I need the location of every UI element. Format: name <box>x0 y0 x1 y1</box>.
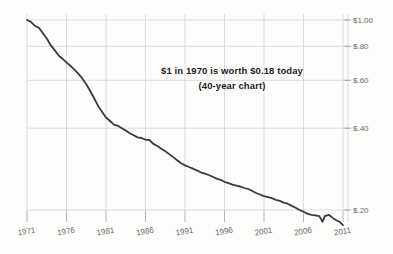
x-tick-label: 1971 <box>17 225 37 237</box>
x-tick-label: 1996 <box>215 225 235 237</box>
x-tick-label: 2001 <box>254 225 274 237</box>
x-tick-label: 1976 <box>57 225 77 237</box>
chart-annotation: $1 in 1970 is worth $0.18 today (40-year… <box>122 63 342 93</box>
y-tick-label: $.40 <box>353 124 369 133</box>
y-tick-label: $.20 <box>353 206 369 215</box>
x-tick-label: 1991 <box>175 225 195 237</box>
inflation-chart: 197119761981198619911996200120062011$1.0… <box>0 0 393 254</box>
y-tick-label: $.60 <box>353 76 369 85</box>
annotation-line-2: (40-year chart) <box>122 78 342 93</box>
x-tick-label: 2006 <box>294 225 314 237</box>
x-tick-label: 2011 <box>333 226 352 238</box>
chart-canvas: 197119761981198619911996200120062011$1.0… <box>0 0 393 254</box>
y-tick-label: $1.00 <box>353 16 374 25</box>
x-tick-label: 1986 <box>136 225 156 237</box>
annotation-line-1: $1 in 1970 is worth $0.18 today <box>122 63 342 78</box>
x-tick-label: 1981 <box>96 225 116 237</box>
y-tick-label: $.80 <box>353 42 369 51</box>
